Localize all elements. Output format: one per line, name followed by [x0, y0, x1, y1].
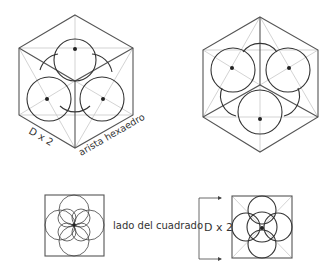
square-side-label: lado del cuadrado [113, 220, 203, 231]
left-hexagon-figure: D x 2 arista hexaedro [19, 15, 147, 158]
bracket-label: D x 2 [204, 221, 233, 234]
arrow-right-icon [218, 257, 222, 261]
left-hexagon-side-label: arista hexaedro [77, 111, 147, 158]
arrow-right-icon [218, 196, 222, 200]
left-square-figure [45, 195, 104, 256]
left-hexagon-inner-edges [19, 48, 133, 81]
diagram-canvas: D x 2 arista hexaedro [0, 0, 330, 278]
right-square-figure [232, 196, 292, 258]
left-square-center-dot [72, 223, 76, 227]
right-square-center-dot [260, 226, 264, 230]
right-hexagon-figure [203, 17, 318, 152]
